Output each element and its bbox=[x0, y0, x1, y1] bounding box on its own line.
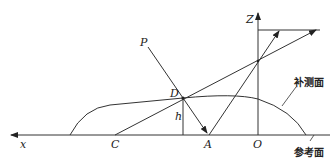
point-c-label: C bbox=[111, 138, 120, 151]
x-axis-label: x bbox=[20, 138, 27, 151]
point-p-label: P bbox=[139, 36, 148, 49]
supplementary-surface-curve bbox=[70, 96, 306, 135]
reference-surface-label: 参考面 bbox=[294, 146, 324, 158]
point-d-dot bbox=[181, 96, 184, 99]
origin-o-label: O bbox=[253, 138, 262, 151]
supplementary-surface-leader bbox=[282, 87, 296, 106]
ray-a-to-upper bbox=[209, 31, 279, 135]
reference-surface-leader bbox=[310, 135, 314, 141]
point-d-label: D bbox=[169, 87, 179, 100]
supplementary-surface-label: 补测面 bbox=[293, 76, 324, 88]
height-h-label: h bbox=[175, 110, 182, 123]
z-axis-label: Z bbox=[245, 13, 254, 26]
intersection-dot bbox=[257, 60, 260, 63]
point-a-label: A bbox=[203, 138, 212, 151]
geometry-diagram: x Z P D h C A O 补测面 参考面 bbox=[0, 0, 336, 164]
